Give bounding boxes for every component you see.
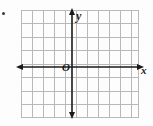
y-axis-label: y — [76, 10, 81, 22]
x-axis-label: x — [141, 65, 147, 76]
origin-label: O — [62, 62, 70, 73]
arrowhead-down-icon — [69, 112, 75, 119]
coordinate-plane-figure: y x O — [0, 0, 153, 126]
arrowhead-left-icon — [16, 64, 23, 70]
arrowhead-up-icon — [69, 8, 75, 15]
